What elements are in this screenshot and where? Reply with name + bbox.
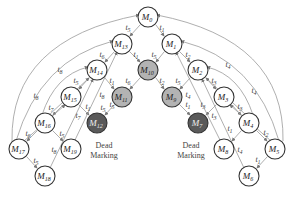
transition-label: t7 (75, 111, 81, 121)
transition-label: t1 (109, 76, 114, 86)
node-m1: M1 (162, 34, 182, 54)
node-m0: M0 (138, 7, 158, 27)
transition-label: t5 (59, 129, 64, 139)
node-m2: M2 (188, 60, 208, 80)
transition-label: t6 (25, 129, 30, 139)
transition-label: t5 (33, 156, 38, 166)
transition-label: t5 (100, 103, 105, 113)
edge-m2-m9 (180, 78, 190, 89)
dead-marking-right: DeadMarking (177, 141, 205, 160)
node-m5: M5 (265, 139, 285, 159)
transition-label: t8 (51, 145, 56, 155)
transition-label: t1 (185, 100, 190, 110)
transition-label: t1 (159, 23, 164, 33)
edge-m10-m11 (130, 78, 140, 89)
transition-label: t2 (263, 128, 268, 138)
transition-label: t8 (99, 90, 104, 100)
annotation-line1: Dead (96, 141, 113, 150)
transition-label: t3 (211, 76, 216, 86)
transition-label: t4 (185, 90, 190, 100)
node-m7: M7 (188, 113, 208, 133)
node-m15: M15 (61, 87, 81, 107)
transition-label: t5 (151, 50, 156, 60)
annotation-line1: Dead (183, 141, 200, 150)
annotation-line2: Marking (90, 151, 118, 160)
edge-m4-m8 (232, 131, 241, 141)
edge-m1-m10 (156, 52, 164, 62)
node-m11: M11 (112, 87, 132, 107)
transition-label: t6 (125, 76, 130, 86)
transition-label: t2 (159, 76, 164, 86)
reachability-graph: t5t1t6t1t5t2t4t8t5t1t6t2t5t3t4t8t8t5t4t7… (0, 0, 297, 198)
transition-label: t5 (125, 23, 130, 33)
transition-label: t1 (85, 102, 90, 112)
transition-label: t4 (251, 86, 256, 96)
node-m18: M18 (35, 166, 55, 186)
node-m14: M14 (87, 60, 107, 80)
transition-label: t4 (225, 60, 230, 70)
annotation-line2: Marking (177, 151, 205, 160)
node-m4: M4 (239, 113, 259, 133)
node-m17: M17 (9, 139, 29, 159)
node-m3: M3 (214, 87, 234, 107)
node-m10: M10 (138, 60, 158, 80)
node-m6: M6 (239, 166, 259, 186)
node-m9: M9 (162, 87, 182, 107)
transition-label: t5 (73, 76, 78, 86)
node-m19: M19 (61, 139, 81, 159)
transition-label: t4 (237, 145, 242, 155)
transition-label: t7 (48, 103, 54, 113)
transition-label: t8 (33, 91, 38, 101)
annotations: DeadMarkingDeadMarking (90, 141, 205, 160)
transition-label: t5 (175, 76, 180, 86)
node-m12: M12 (87, 113, 107, 133)
transition-label: t2 (185, 50, 190, 60)
node-m13: M13 (112, 34, 132, 54)
transition-label: t3 (200, 100, 205, 110)
transition-label: t3 (237, 102, 242, 112)
transition-label: t1 (133, 50, 138, 60)
transition-label: t1 (227, 124, 232, 134)
edge-m0-m13 (130, 25, 140, 36)
node-m8: M8 (214, 139, 234, 159)
transition-label: t3 (211, 111, 216, 121)
node-m16: M16 (35, 113, 55, 133)
dead-marking-left: DeadMarking (90, 141, 118, 160)
transition-label: t6 (99, 50, 104, 60)
transition-label: t1 (255, 155, 260, 165)
